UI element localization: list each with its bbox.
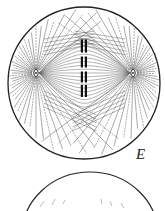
mitosis-figure xyxy=(0,0,165,211)
next-panel-cell-arc xyxy=(22,172,158,211)
panel-label: E xyxy=(136,146,145,163)
next-panel-rays xyxy=(40,199,124,208)
astral-rays xyxy=(9,9,159,154)
